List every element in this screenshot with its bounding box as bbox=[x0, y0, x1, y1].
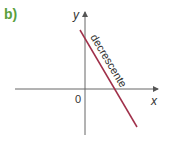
decreasing-line bbox=[80, 30, 137, 127]
line-annotation: decrescente bbox=[88, 32, 129, 90]
y-axis-label: y bbox=[72, 8, 80, 22]
x-axis-label: x bbox=[150, 94, 158, 108]
origin-label: 0 bbox=[75, 93, 81, 105]
graph: y x 0 decrescente bbox=[0, 0, 169, 142]
